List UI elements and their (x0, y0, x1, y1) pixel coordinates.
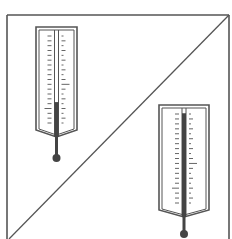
thermometer-bulb (53, 154, 61, 162)
thermometer-mercury (55, 102, 59, 137)
thermometer-stem (55, 136, 58, 157)
thermometer-upper-left (36, 27, 77, 162)
thermometer-lower-right (159, 105, 209, 238)
thermometer-bulb (180, 230, 188, 238)
thermometers (36, 27, 209, 238)
thermometer-mercury (182, 113, 186, 217)
diagram-canvas (0, 0, 232, 239)
